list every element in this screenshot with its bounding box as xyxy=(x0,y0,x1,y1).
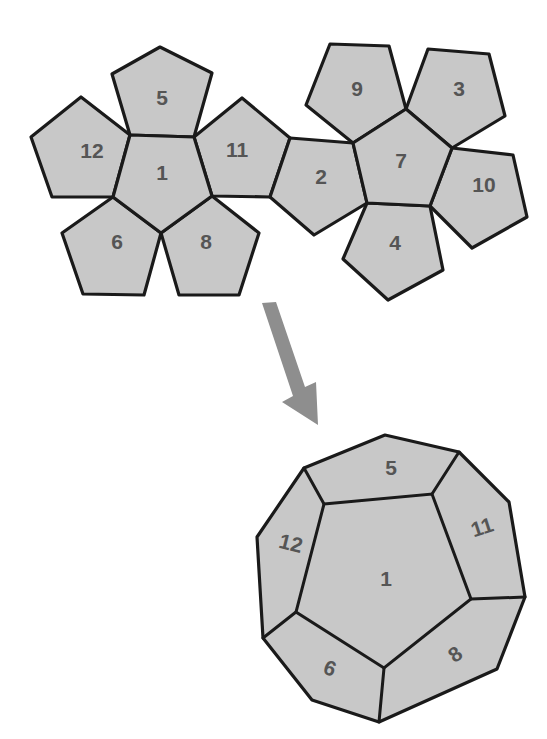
face-label: 7 xyxy=(395,149,407,172)
dodecahedron-diagram: 5 12 11 6 8 1 2 9 xyxy=(0,0,547,739)
face-label: 6 xyxy=(111,230,123,253)
face-label: 11 xyxy=(226,138,249,161)
dodecahedron-net: 5 12 11 6 8 1 2 9 xyxy=(31,44,527,300)
solid-edge xyxy=(471,597,525,599)
fold-arrow-icon xyxy=(262,302,318,425)
face-label: 8 xyxy=(200,230,212,253)
face-label: 2 xyxy=(315,165,327,188)
face-label: 4 xyxy=(389,231,401,254)
net-face-5: 5 xyxy=(112,47,212,137)
face-label: 5 xyxy=(156,86,168,109)
face-label: 3 xyxy=(453,77,465,100)
face-label: 10 xyxy=(472,173,495,196)
face-label: 9 xyxy=(351,77,363,100)
solid-face-label-5: 5 xyxy=(385,456,397,479)
solid-face-label-1: 1 xyxy=(380,567,392,590)
face-label: 1 xyxy=(156,161,168,184)
net-face-4: 4 xyxy=(343,203,443,300)
net-face-12: 12 xyxy=(31,97,130,197)
net-face-2: 2 xyxy=(270,138,367,235)
face-label: 12 xyxy=(80,139,103,162)
dodecahedron-solid: 5 12 11 1 6 8 xyxy=(257,435,525,722)
